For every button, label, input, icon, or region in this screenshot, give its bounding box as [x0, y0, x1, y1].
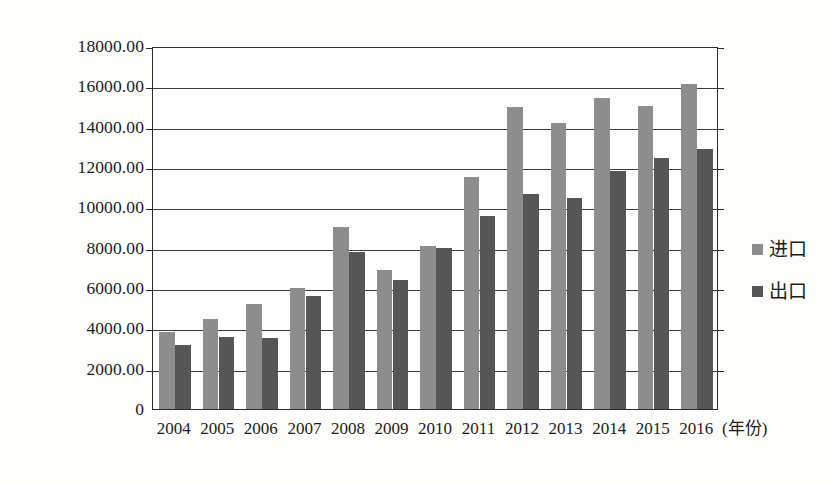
y-axis-tick-mark	[146, 250, 152, 251]
bar-chart: 02000.004000.006000.008000.0010000.00120…	[0, 0, 835, 483]
bar-group	[377, 48, 409, 409]
bar-group	[246, 48, 278, 409]
bar-group	[594, 48, 626, 409]
bar-group	[681, 48, 713, 409]
y-axis-tick-label: 16000.00	[0, 79, 144, 97]
y-axis-tick-mark-right	[718, 371, 724, 372]
bar-export	[262, 338, 278, 409]
bar-export	[219, 337, 235, 409]
y-axis-tick-mark	[146, 330, 152, 331]
bar-export	[480, 216, 496, 409]
bar-export	[175, 345, 191, 409]
bar-import	[290, 288, 306, 409]
bar-export	[654, 158, 670, 409]
bar-export	[697, 149, 713, 409]
bar-group	[420, 48, 452, 409]
y-axis-tick-label: 8000.00	[0, 240, 144, 258]
chart-legend: 进口出口	[752, 238, 832, 322]
x-axis-tick-label: 2009	[374, 418, 408, 440]
x-axis-tick-label: 2006	[244, 418, 278, 440]
bar-import	[594, 98, 610, 409]
y-axis-tick-mark	[146, 371, 152, 372]
bars-layer	[153, 48, 717, 409]
x-axis-tick-label: 2007	[287, 418, 321, 440]
y-axis-tick-mark-right	[718, 48, 724, 49]
y-axis-tick-mark	[146, 129, 152, 130]
y-axis-tick-label: 6000.00	[0, 280, 144, 298]
y-axis-tick-mark	[146, 290, 152, 291]
x-axis-tick-label: 2015	[636, 418, 670, 440]
legend-label: 出口	[769, 282, 807, 301]
y-axis-tick-label: 12000.00	[0, 159, 144, 177]
bar-export	[306, 296, 322, 409]
y-axis-tick-label: 10000.00	[0, 200, 144, 218]
y-axis-tick-mark	[146, 169, 152, 170]
bar-import	[246, 304, 262, 409]
x-axis-title: (年份)	[722, 418, 767, 440]
x-axis-tick-label: 2014	[592, 418, 626, 440]
y-axis-tick-mark	[146, 88, 152, 89]
y-axis-tick-label: 2000.00	[0, 361, 144, 379]
x-axis-tick-label: 2010	[418, 418, 452, 440]
bar-group	[203, 48, 235, 409]
bar-export	[523, 194, 539, 409]
legend-swatch-icon	[752, 244, 763, 255]
bar-import	[681, 84, 697, 409]
y-axis-tick-label: 18000.00	[0, 38, 144, 56]
y-axis-tick-label: 0	[0, 401, 144, 419]
legend-label: 进口	[769, 240, 807, 259]
x-axis-tick-label: 2004	[157, 418, 191, 440]
legend-item: 进口	[752, 238, 832, 260]
bar-import	[507, 107, 523, 410]
y-axis-tick-mark-right	[718, 209, 724, 210]
x-axis-tick-label: 2016	[679, 418, 713, 440]
bar-group	[638, 48, 670, 409]
y-axis-tick-mark	[146, 209, 152, 210]
bar-import	[333, 227, 349, 410]
y-axis-tick-mark-right	[718, 250, 724, 251]
y-axis-tick-mark-right	[718, 169, 724, 170]
bar-import	[377, 270, 393, 409]
bar-export	[393, 280, 409, 409]
bar-group	[290, 48, 322, 409]
bar-import	[638, 106, 654, 410]
bar-export	[436, 248, 452, 409]
bar-group	[551, 48, 583, 409]
x-axis-tick-label: 2011	[462, 418, 495, 440]
y-axis-tick-label: 4000.00	[0, 321, 144, 339]
y-axis-tick-mark-right	[718, 129, 724, 130]
y-axis-tick-mark	[146, 48, 152, 49]
x-axis-tick-label: 2013	[549, 418, 583, 440]
bar-import	[420, 246, 436, 409]
bar-export	[610, 171, 626, 409]
bar-import	[159, 332, 175, 409]
y-axis: 02000.004000.006000.008000.0010000.00120…	[0, 0, 144, 483]
x-axis-tick-label: 2005	[200, 418, 234, 440]
legend-item: 出口	[752, 280, 832, 302]
bar-import	[464, 177, 480, 409]
bar-group	[333, 48, 365, 409]
x-axis-tick-label: 2008	[331, 418, 365, 440]
y-axis-tick-label: 14000.00	[0, 119, 144, 137]
bar-export	[349, 252, 365, 409]
plot-area	[152, 47, 718, 410]
bar-import	[203, 319, 219, 409]
bar-group	[464, 48, 496, 409]
bar-group	[159, 48, 191, 409]
legend-swatch-icon	[752, 286, 763, 297]
y-axis-tick-mark-right	[718, 330, 724, 331]
bar-export	[567, 198, 583, 409]
y-axis-tick-mark-right	[718, 88, 724, 89]
x-axis-tick-label: 2012	[505, 418, 539, 440]
bar-import	[551, 123, 567, 409]
x-axis: 2004200520062007200820092010201120122013…	[152, 418, 718, 448]
bar-group	[507, 48, 539, 409]
y-axis-tick-mark-right	[718, 290, 724, 291]
